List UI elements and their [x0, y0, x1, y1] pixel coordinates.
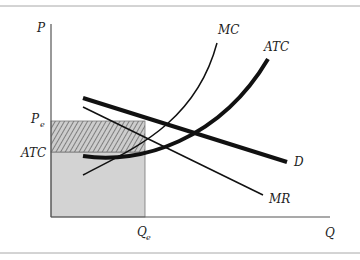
mc-label: MC: [217, 23, 239, 37]
monopoly-diagram: P Q P e ATC Q e MC ATC D MR: [0, 0, 360, 260]
profit-region: [51, 121, 145, 152]
pe-label: P: [30, 112, 40, 126]
atc-level-label: ATC: [20, 146, 46, 160]
y-axis-label: P: [36, 21, 46, 35]
mr-label: MR: [268, 192, 290, 206]
d-label: D: [293, 155, 304, 169]
total-cost-region: [51, 152, 145, 217]
pe-subscript: e: [40, 120, 45, 129]
x-axis-label: Q: [325, 226, 335, 240]
qe-subscript: e: [146, 233, 151, 242]
atc-curve-label: ATC: [263, 40, 289, 54]
